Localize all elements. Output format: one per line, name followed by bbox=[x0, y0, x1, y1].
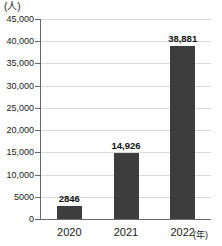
y-axis-tick-label: 40,000 bbox=[0, 37, 34, 46]
y-axis-tick-label: 15,000 bbox=[0, 148, 34, 157]
y-axis-tick-label: 5000 bbox=[0, 193, 34, 202]
y-axis-tick-label-text: 5000 bbox=[0, 193, 34, 202]
y-axis-tick-label: 25,000 bbox=[0, 104, 34, 113]
y-axis-tick bbox=[35, 41, 40, 42]
y-axis-tick-label-text: 0 bbox=[0, 215, 34, 224]
bar bbox=[57, 206, 82, 219]
y-axis-tick-label-text: 15,000 bbox=[0, 148, 34, 157]
y-axis-tick-label: 45,000 bbox=[0, 15, 34, 24]
y-axis-tick bbox=[35, 175, 40, 176]
y-axis-tick-label: 30,000 bbox=[0, 82, 34, 91]
y-axis-tick-label-text: 35,000 bbox=[0, 59, 34, 68]
bar-value-label: 38,881 bbox=[153, 34, 213, 44]
y-axis-unit-label: (人) bbox=[4, 1, 21, 13]
y-axis-tick-label: 10,000 bbox=[0, 171, 34, 180]
y-axis-tick-label: 0 bbox=[0, 215, 34, 224]
bar-value-label: 14,926 bbox=[96, 141, 156, 151]
y-axis-tick-label-text: 25,000 bbox=[0, 104, 34, 113]
y-axis-tick bbox=[35, 19, 40, 20]
y-axis-tick bbox=[35, 86, 40, 87]
y-axis-tick bbox=[35, 108, 40, 109]
x-axis-tick-label: 2022 bbox=[161, 226, 205, 239]
x-axis-tick-label: 2020 bbox=[47, 226, 91, 239]
y-axis-tick-label-text: 30,000 bbox=[0, 82, 34, 91]
y-axis-tick bbox=[35, 130, 40, 131]
x-axis-tick-label: 2021 bbox=[104, 226, 148, 239]
y-axis-tick-label-text: 20,000 bbox=[0, 126, 34, 135]
bar-chart: (人) (年) 0500010,00015,00020,00025,00030,… bbox=[0, 0, 222, 246]
y-axis-tick-label: 35,000 bbox=[0, 59, 34, 68]
y-axis-tick bbox=[35, 63, 40, 64]
y-axis-tick bbox=[35, 219, 40, 220]
bar-value-label: 2846 bbox=[39, 194, 99, 204]
bar bbox=[170, 46, 195, 219]
y-axis-tick bbox=[35, 152, 40, 153]
bar bbox=[114, 153, 139, 219]
y-axis-tick-label-text: 45,000 bbox=[0, 15, 34, 24]
plot-area bbox=[41, 19, 211, 219]
y-axis-tick-label-text: 10,000 bbox=[0, 171, 34, 180]
gridline bbox=[41, 219, 211, 220]
y-axis-tick-label: 20,000 bbox=[0, 126, 34, 135]
y-axis-tick-label-text: 40,000 bbox=[0, 37, 34, 46]
